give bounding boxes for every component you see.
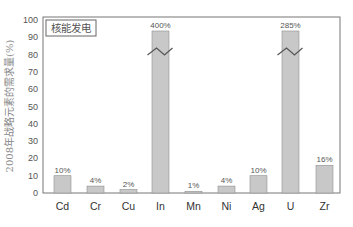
bar-cd (54, 176, 71, 193)
y-tick-label: 90 (28, 32, 38, 42)
y-tick-label: 40 (28, 119, 38, 129)
y-tick-label: 100 (23, 15, 38, 25)
value-label: 4% (90, 176, 102, 185)
value-label: 10% (54, 166, 70, 175)
x-tick-label: Cu (122, 200, 136, 212)
bar-cu (120, 190, 137, 193)
bar-chart: 01020304050607080901002008年战略元素的需求量(%)核能… (0, 0, 353, 227)
y-tick-label: 20 (28, 153, 38, 163)
value-label: 4% (221, 176, 233, 185)
bar-u (282, 31, 299, 193)
bar-mn (185, 191, 202, 193)
y-tick-label: 50 (28, 102, 38, 112)
x-tick-label: Cd (56, 200, 70, 212)
y-tick-label: 80 (28, 50, 38, 60)
value-label: 16% (316, 155, 332, 164)
y-axis-label: 2008年战略元素的需求量(%) (3, 40, 15, 173)
bar-in (152, 31, 169, 193)
x-tick-label: Zr (320, 200, 330, 212)
x-tick-label: U (287, 200, 295, 212)
y-tick-label: 30 (28, 136, 38, 146)
y-tick-label: 0 (33, 188, 38, 198)
x-tick-label: Ni (222, 200, 232, 212)
value-label: 10% (250, 166, 266, 175)
value-label: 2% (123, 180, 135, 189)
value-label: 400% (150, 21, 170, 30)
legend-label: 核能发电 (51, 22, 92, 34)
y-tick-label: 70 (28, 67, 38, 77)
bar-cr (87, 186, 104, 193)
value-label: 285% (280, 21, 300, 30)
y-tick-label: 60 (28, 84, 38, 94)
x-tick-label: Mn (186, 200, 201, 212)
plot-area: 01020304050607080901002008年战略元素的需求量(%)核能… (3, 15, 340, 212)
x-tick-label: Ag (252, 200, 265, 212)
bar-ni (218, 186, 235, 193)
value-label: 1% (188, 181, 200, 190)
bar-zr (316, 165, 333, 193)
bar-ag (250, 176, 267, 193)
y-tick-label: 10 (28, 171, 38, 181)
x-tick-label: In (156, 200, 165, 212)
x-tick-label: Cr (90, 200, 102, 212)
